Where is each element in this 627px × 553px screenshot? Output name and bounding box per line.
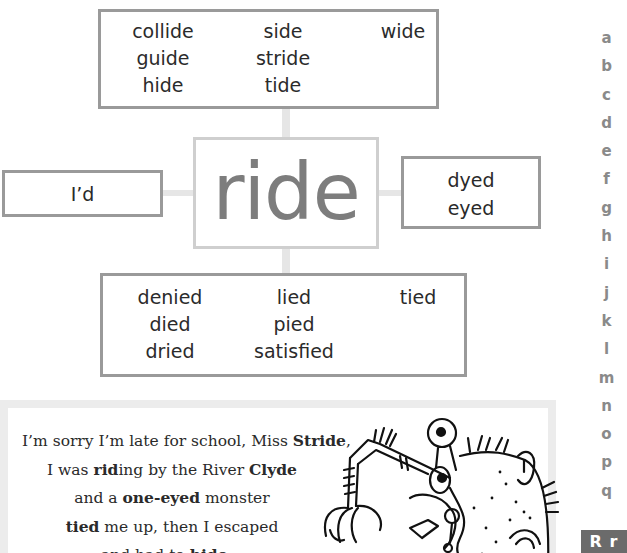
- poem-line: I’m sorry I’m late for school, Miss Stri…: [22, 427, 322, 456]
- poem-text-run: I was: [47, 461, 93, 479]
- word: denied: [108, 285, 232, 310]
- poem-text-run: ing by the River: [118, 461, 249, 479]
- index-letter-l[interactable]: l: [582, 335, 627, 363]
- rhyme-box-ide: collide side wide guide stride hide tide: [98, 9, 439, 109]
- rhyme-box-ied: denied lied tied died pied dried satisfi…: [100, 273, 467, 377]
- poem-line: tied me up, then I escaped: [22, 513, 322, 542]
- poem-line: and had to hide…: [22, 541, 322, 553]
- rhyme-box-yed: dyed eyed: [401, 156, 541, 229]
- poem-bold-word: tied: [66, 517, 100, 536]
- poem-text-run: me up, then I escaped: [99, 518, 278, 536]
- word: tide: [223, 73, 343, 98]
- word: [343, 46, 463, 71]
- index-letter-c[interactable]: c: [582, 81, 627, 109]
- word: I’d: [5, 182, 160, 206]
- word: stride: [223, 46, 343, 71]
- poem-bold-word: rid: [94, 460, 119, 479]
- index-letter-g[interactable]: g: [582, 194, 627, 222]
- word-stack: dyed eyed: [404, 166, 538, 222]
- index-letter-d[interactable]: d: [582, 109, 627, 137]
- index-letter-b[interactable]: b: [582, 52, 627, 80]
- index-letter-k[interactable]: k: [582, 307, 627, 335]
- word-grid: denied lied tied died pied dried satisfi…: [108, 285, 480, 364]
- word: [356, 312, 480, 337]
- poem-bold-word: Clyde: [249, 460, 297, 479]
- index-letter-o[interactable]: o: [582, 420, 627, 448]
- poem-text-run: …: [228, 546, 244, 553]
- poem-panel: I’m sorry I’m late for school, Miss Stri…: [0, 400, 556, 553]
- connector-top: [282, 108, 290, 138]
- poem-bold-word: one-eyed: [123, 488, 200, 507]
- index-letter-j[interactable]: j: [582, 279, 627, 307]
- word: dried: [108, 339, 232, 364]
- key-word: ride: [196, 144, 376, 240]
- word: side: [223, 19, 343, 44]
- index-letter-n[interactable]: n: [582, 392, 627, 420]
- poem-text-run: I’m sorry I’m late for school, Miss: [22, 432, 293, 450]
- word: eyed: [404, 194, 538, 222]
- word: satisfied: [232, 339, 356, 364]
- poem-text-run: monster: [200, 489, 270, 507]
- poem-text-run: and had to: [101, 546, 190, 553]
- word-grid: collide side wide guide stride hide tide: [103, 19, 463, 98]
- word: tied: [356, 285, 480, 310]
- word: [343, 73, 463, 98]
- word: [356, 339, 480, 364]
- index-letter-q[interactable]: q: [582, 477, 627, 505]
- word: lied: [232, 285, 356, 310]
- rhyme-box-apostrophe: I’d: [2, 170, 163, 217]
- index-letter-f[interactable]: f: [582, 165, 627, 193]
- word: hide: [103, 73, 223, 98]
- connector-left: [162, 190, 194, 196]
- word: wide: [343, 19, 463, 44]
- alphabet-index: a b c d e f g h i j k l m n o p q: [582, 24, 627, 505]
- poem-text: I’m sorry I’m late for school, Miss Stri…: [22, 427, 322, 553]
- poem-text-run: and a: [74, 489, 122, 507]
- word: guide: [103, 46, 223, 71]
- word: dyed: [404, 166, 538, 194]
- word: collide: [103, 19, 223, 44]
- connector-right: [378, 190, 402, 196]
- index-letter-h[interactable]: h: [582, 222, 627, 250]
- word: died: [108, 312, 232, 337]
- key-word-box: ride: [193, 137, 379, 249]
- poem-line: and a one-eyed monster: [22, 484, 322, 513]
- poem-line: I was riding by the River Clyde: [22, 456, 322, 485]
- poem-bold-word: hide: [190, 545, 228, 553]
- index-letter-m[interactable]: m: [582, 364, 627, 392]
- index-letter-e[interactable]: e: [582, 137, 627, 165]
- word: pied: [232, 312, 356, 337]
- index-letter-i[interactable]: i: [582, 250, 627, 278]
- connector-bottom: [282, 248, 290, 274]
- index-letter-a[interactable]: a: [582, 24, 627, 52]
- index-letter-p[interactable]: p: [582, 448, 627, 476]
- index-current-letter-tab[interactable]: R r: [581, 530, 627, 553]
- monster-illustration-icon: [310, 408, 560, 553]
